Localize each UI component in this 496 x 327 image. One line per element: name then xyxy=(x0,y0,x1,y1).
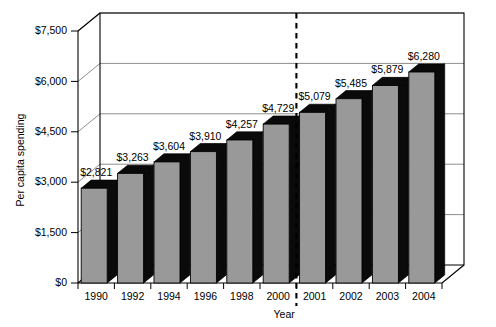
bar-front-face xyxy=(227,140,253,283)
bottom-right-depth-edge xyxy=(442,265,464,283)
bar-side-face xyxy=(289,116,299,283)
bar-front-face xyxy=(372,85,398,283)
bar-side-face xyxy=(253,132,263,283)
bar-chart: $0$1,500$3,000$4,500$6,000$7,500 1990199… xyxy=(0,0,496,327)
gridline-depth xyxy=(78,114,100,132)
y-tick-label: $4,500 xyxy=(35,125,67,137)
bar-side-face xyxy=(216,144,226,283)
bar-value-label: $5,879 xyxy=(371,63,403,75)
bar-value-label: $4,257 xyxy=(226,118,258,130)
bar-front-face xyxy=(81,188,107,283)
bar-side-face xyxy=(326,104,336,283)
bar-front-face xyxy=(190,152,216,283)
bar-side-face xyxy=(435,64,445,283)
bar-side-face xyxy=(107,180,117,283)
x-tick-label: 2001 xyxy=(303,290,327,302)
bars-group xyxy=(81,64,445,283)
bar-front-face xyxy=(336,99,362,283)
x-tick-label: 2000 xyxy=(267,290,291,302)
bar-front-face xyxy=(300,112,326,283)
bar-side-face xyxy=(180,154,190,283)
y-axis-title: Per capita spending xyxy=(14,113,26,206)
bar-value-label: $5,485 xyxy=(335,77,367,89)
x-tick-label: 2002 xyxy=(339,290,363,302)
x-axis-title: Year xyxy=(274,308,296,320)
x-axis-ticks: 1990199219941996199820002001200220032004 xyxy=(78,283,442,302)
y-tick-label: $0 xyxy=(55,276,67,288)
x-tick-label: 1996 xyxy=(194,290,218,302)
bar-value-label: $5,079 xyxy=(299,90,331,102)
bar-front-face xyxy=(409,72,435,283)
bar-side-face xyxy=(362,91,372,283)
bar-value-label: $3,263 xyxy=(117,151,149,163)
gridline-depth xyxy=(78,63,100,81)
y-tick-label: $1,500 xyxy=(35,226,67,238)
bar-side-face xyxy=(398,77,408,283)
x-tick-label: 2004 xyxy=(412,290,436,302)
y-tick-label: $7,500 xyxy=(35,24,67,36)
bar-front-face xyxy=(118,173,144,283)
bar-value-label: $6,280 xyxy=(408,50,440,62)
bar-front-face xyxy=(263,124,289,283)
x-tick-label: 2003 xyxy=(376,290,400,302)
chart-container: $0$1,500$3,000$4,500$6,000$7,500 1990199… xyxy=(0,0,496,327)
bar-value-label: $3,604 xyxy=(153,140,185,152)
bar-front-face xyxy=(154,162,180,283)
bar-value-label: $3,910 xyxy=(189,130,221,142)
y-tick-label: $6,000 xyxy=(35,75,67,87)
x-tick-label: 1994 xyxy=(157,290,181,302)
x-tick-label: 1990 xyxy=(85,290,109,302)
top-left-depth-edge xyxy=(78,13,100,31)
y-axis-ticks: $0$1,500$3,000$4,500$6,000$7,500 xyxy=(35,24,78,288)
x-tick-label: 1992 xyxy=(121,290,145,302)
bar-value-label: $2,821 xyxy=(80,166,112,178)
x-tick-label: 1998 xyxy=(230,290,254,302)
y-tick-label: $3,000 xyxy=(35,175,67,187)
bar-value-label: $4,729 xyxy=(262,102,294,114)
bar-side-face xyxy=(144,165,154,283)
